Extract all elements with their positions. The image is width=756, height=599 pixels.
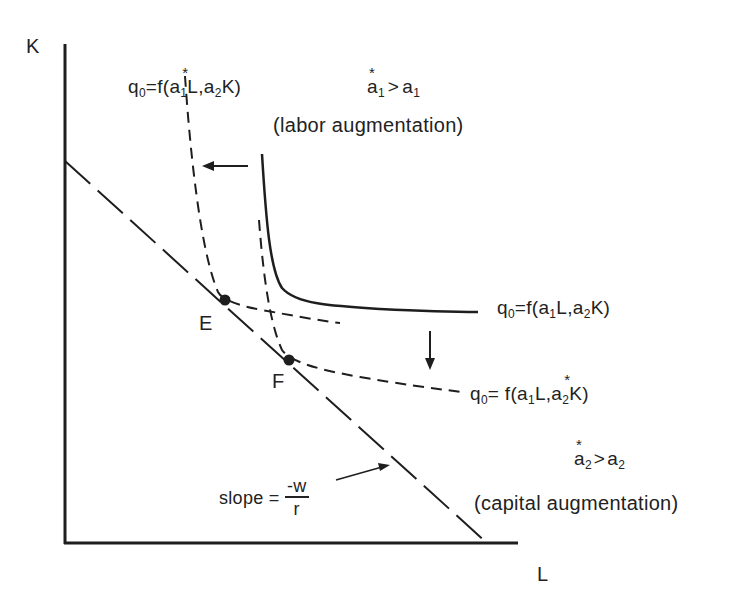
cond-sub: 1: [413, 86, 420, 100]
labor-augmentation-text: (labor augmentation): [273, 115, 464, 135]
isoquant-labor-augmented-label: q0=f(a1L,a2K): [128, 77, 241, 96]
isoquant-original-label: q0=f(a1L,a2K): [497, 298, 610, 317]
label-body: K): [569, 383, 589, 404]
y-axis-label: K: [26, 36, 40, 56]
label-body: =f(a: [515, 297, 549, 318]
label-q: q: [128, 76, 139, 97]
label-sub: 0: [481, 393, 488, 407]
label-sub: 1: [528, 393, 535, 407]
cond-a: a: [574, 448, 585, 469]
label-sub: 2: [215, 86, 222, 100]
cond-sub: 2: [618, 458, 625, 472]
point-f-label: F: [272, 371, 285, 391]
label-body: L,a: [535, 383, 562, 404]
label-sub: 0: [139, 86, 146, 100]
point-e-label: E: [199, 313, 213, 333]
label-body: = f(a: [488, 383, 528, 404]
point-e-marker: [220, 295, 231, 306]
label-body: L,a: [187, 76, 214, 97]
cond-a: a: [367, 76, 378, 97]
point-f-marker: [284, 355, 295, 366]
slope-label: slope = -w r: [219, 477, 309, 518]
label-q: q: [497, 297, 508, 318]
capital-condition: a2>a2: [574, 449, 625, 468]
slope-text: slope =: [219, 488, 280, 508]
labor-condition: a1>a1: [367, 77, 420, 96]
label-sub: 0: [508, 307, 515, 321]
slope-arrow-shaft: [336, 467, 382, 480]
label-body: =f(a: [146, 76, 180, 97]
label-body: K): [591, 297, 611, 318]
slope-fraction: -w r: [285, 477, 309, 518]
isoquant-original: [262, 154, 478, 312]
label-q: q: [470, 383, 481, 404]
label-body: K): [222, 76, 242, 97]
cond-sub: 2: [585, 458, 592, 472]
capital-augmentation-text: (capital augmentation): [474, 493, 679, 513]
slope-numerator: -w: [285, 477, 309, 498]
cond-op: >: [592, 448, 607, 469]
slope-denominator: r: [285, 498, 309, 518]
down-arrow-icon: [425, 358, 435, 370]
left-arrow-icon: [202, 161, 214, 171]
label-body: L,a: [556, 297, 583, 318]
x-axis-label: L: [537, 564, 548, 584]
cond-op: >: [385, 76, 402, 97]
cond-b: a: [607, 448, 618, 469]
cond-sub: 1: [378, 86, 385, 100]
isoquant-capital-augmented-label: q0= f(a1L,a2K): [470, 384, 589, 403]
cond-b: a: [402, 76, 413, 97]
slope-arrow-icon: [378, 463, 390, 471]
label-sub: 2: [584, 307, 591, 321]
